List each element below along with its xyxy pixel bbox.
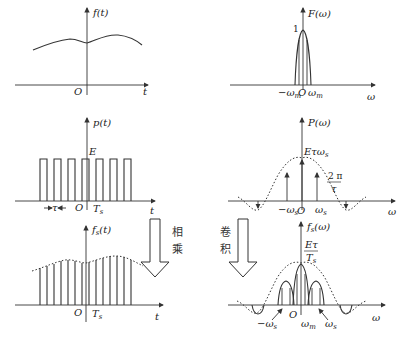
convolve-char2: 积 bbox=[220, 243, 231, 256]
convolve-char1: 卷 bbox=[220, 225, 231, 239]
neg-ws-label: −ωs bbox=[257, 318, 278, 331]
multiply-char1: 相 bbox=[172, 226, 183, 239]
panel-pt: p(t) E τ O Ts t bbox=[15, 117, 155, 216]
panel-fst: fs(t) O Ts t bbox=[15, 224, 163, 322]
xlabel: t bbox=[150, 205, 155, 216]
width-label: τ bbox=[52, 202, 58, 213]
peak-label: 1 bbox=[293, 24, 299, 34]
origin: O bbox=[74, 86, 82, 97]
xlabel: ω bbox=[372, 312, 380, 323]
ylabel: f(t) bbox=[92, 7, 109, 18]
origin: O bbox=[289, 309, 297, 320]
origin: O bbox=[74, 307, 82, 318]
pos-wm-label: ωm bbox=[308, 87, 323, 100]
left-lobe bbox=[278, 281, 294, 305]
sinc-envelope bbox=[237, 262, 366, 313]
pos-ws-label: ωs bbox=[315, 204, 327, 217]
multiply-arrow: 相 乘 bbox=[141, 219, 183, 277]
envelope bbox=[32, 256, 143, 271]
origin: O bbox=[298, 87, 306, 98]
panel-Fsw: fs(ω) Eτ Ts −ωs O ωm ωs ω bbox=[228, 221, 385, 331]
xlabel: t bbox=[155, 311, 160, 322]
right-lobe bbox=[308, 281, 324, 305]
xlabel: t bbox=[143, 86, 148, 97]
ylabel: F(ω) bbox=[307, 8, 331, 19]
sampling-diagram: f(t) t O F(ω) 1 −ωm O ωm ω p(t) E τ O Ts… bbox=[0, 0, 407, 339]
xlabel: ω bbox=[367, 91, 375, 102]
signal-curve bbox=[33, 35, 142, 50]
pos-ws-label: ωs bbox=[325, 318, 337, 331]
zero-den: τ bbox=[331, 183, 337, 194]
panel-ft: f(t) t O bbox=[15, 7, 148, 97]
ylabel: p(t) bbox=[93, 117, 111, 128]
period-label: Ts bbox=[92, 308, 103, 321]
period-label: Ts bbox=[93, 203, 104, 216]
amplitude-label: E bbox=[88, 146, 97, 157]
down-arrow-icon bbox=[141, 219, 169, 277]
wm-label: ωm bbox=[301, 318, 316, 331]
origin: O bbox=[297, 205, 305, 216]
origin: O bbox=[75, 202, 83, 213]
pulse-train bbox=[40, 159, 131, 201]
sample-lines bbox=[40, 256, 131, 305]
convolve-arrow: 卷 积 bbox=[220, 219, 257, 277]
ylabel: fs(ω) bbox=[306, 221, 330, 234]
panel-Pw: P(ω) Eτωs 2 π τ −ωs O ωs ω bbox=[228, 117, 396, 217]
ylabel: fs(t) bbox=[91, 224, 111, 237]
panel-Fw: F(ω) 1 −ωm O ωm ω bbox=[230, 8, 375, 102]
neg-ws-label: −ωs bbox=[278, 204, 299, 217]
down-arrow-icon bbox=[229, 219, 257, 277]
zero-num: 2 π bbox=[328, 171, 343, 181]
xlabel: ω bbox=[388, 206, 396, 217]
ylabel: P(ω) bbox=[307, 117, 331, 128]
peak-num: Eτ bbox=[304, 239, 318, 250]
multiply-char2: 乘 bbox=[172, 243, 183, 256]
